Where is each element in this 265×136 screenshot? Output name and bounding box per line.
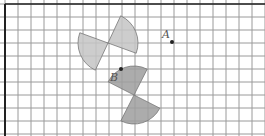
- point-b: [119, 67, 123, 71]
- upper-right-sector: [108, 16, 138, 53]
- point-label-b: B: [109, 71, 118, 84]
- point-a: [170, 40, 174, 44]
- lower-upper-sector: [121, 95, 160, 124]
- geometry-diagram: AB: [0, 0, 265, 136]
- point-label-a: A: [161, 28, 170, 41]
